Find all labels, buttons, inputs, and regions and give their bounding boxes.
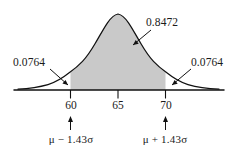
upper-bound-expression-label: μ + 1.43σ [122,134,208,145]
center-area-label: 0.8472 [146,17,178,29]
right-tail-area-label: 0.0764 [191,57,223,69]
axis-tick-label-60: 60 [60,100,82,112]
lower-bound-expression-label: μ − 1.43σ [28,134,114,145]
distribution-curve-graphic [0,0,237,156]
pointer-arrow-upper-bound [163,116,168,130]
normal-distribution-figure: 0.0764 0.8472 0.0764 60 65 70 μ − 1.43σ … [0,0,237,156]
pointer-arrow-lower-bound [68,116,73,130]
axis-tick-label-65: 65 [107,100,129,112]
left-tail-area-label: 0.0764 [13,57,45,69]
axis-tick-label-70: 70 [155,100,177,112]
